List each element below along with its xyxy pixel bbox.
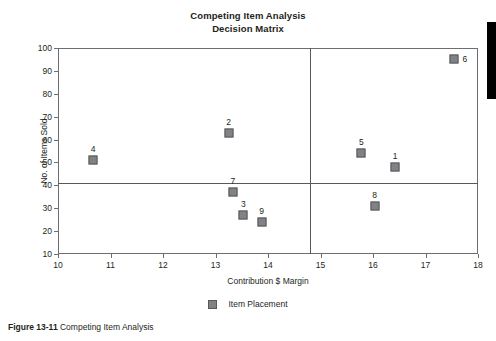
chart-subtitle: Decision Matrix xyxy=(0,23,496,36)
x-axis-label: Contribution $ Margin xyxy=(58,276,478,286)
chart-title-block: Competing Item Analysis Decision Matrix xyxy=(0,10,496,35)
data-point-marker xyxy=(89,156,98,165)
y-tick-mark xyxy=(54,94,58,95)
plot-frame xyxy=(58,48,478,254)
y-tick-mark xyxy=(54,71,58,72)
figure-root: Competing Item Analysis Decision Matrix … xyxy=(0,0,496,341)
y-tick-label: 30 xyxy=(43,204,52,213)
x-tick-mark xyxy=(268,254,269,258)
y-tick-mark xyxy=(54,162,58,163)
figure-caption-text: Competing Item Analysis xyxy=(60,322,154,332)
y-tick-label: 100 xyxy=(38,44,52,53)
x-tick-mark xyxy=(478,254,479,258)
data-point-marker xyxy=(239,211,248,220)
y-tick-mark xyxy=(54,117,58,118)
x-tick-label: 16 xyxy=(368,261,377,270)
y-tick-label: 20 xyxy=(43,227,52,236)
x-tick-label: 12 xyxy=(158,261,167,270)
x-tick-label: 14 xyxy=(263,261,272,270)
data-point-marker xyxy=(391,163,400,172)
data-point-label: 1 xyxy=(393,152,398,161)
data-point-marker xyxy=(450,55,459,64)
x-tick-mark xyxy=(163,254,164,258)
x-tick-mark xyxy=(373,254,374,258)
x-tick-mark xyxy=(426,254,427,258)
quadrant-line-vertical xyxy=(310,48,311,254)
y-tick-label: 10 xyxy=(43,250,52,259)
figure-caption: Figure 13-11 Competing Item Analysis xyxy=(8,322,154,333)
data-point-label: 4 xyxy=(91,145,96,154)
y-tick-label: 50 xyxy=(43,158,52,167)
y-tick-mark xyxy=(54,48,58,49)
legend-swatch-icon xyxy=(208,300,217,309)
y-tick-label: 90 xyxy=(43,66,52,75)
x-tick-mark xyxy=(111,254,112,258)
x-tick-label: 13 xyxy=(211,261,220,270)
data-point-label: 5 xyxy=(359,138,364,147)
legend-label: Item Placement xyxy=(228,299,287,309)
y-tick-label: 60 xyxy=(43,135,52,144)
x-tick-label: 18 xyxy=(473,261,482,270)
x-tick-label: 15 xyxy=(316,261,325,270)
y-tick-label: 70 xyxy=(43,112,52,121)
data-point-label: 3 xyxy=(241,200,246,209)
data-point-label: 8 xyxy=(372,191,377,200)
data-point-label: 7 xyxy=(230,177,235,186)
y-tick-mark xyxy=(54,208,58,209)
data-point-label: 9 xyxy=(259,207,264,216)
y-tick-mark xyxy=(54,140,58,141)
figure-number: Figure 13-11 xyxy=(8,322,58,332)
quadrant-line-horizontal xyxy=(58,183,478,184)
x-tick-label: 17 xyxy=(421,261,430,270)
chart-title: Competing Item Analysis xyxy=(0,10,496,23)
y-axis-label-text: No. of Items Sold xyxy=(39,118,49,183)
x-tick-label: 11 xyxy=(106,261,115,270)
x-tick-mark xyxy=(216,254,217,258)
chart-legend: Item Placement xyxy=(0,299,496,309)
y-tick-mark xyxy=(54,231,58,232)
data-point-marker xyxy=(357,149,366,158)
x-tick-mark xyxy=(58,254,59,258)
y-tick-mark xyxy=(54,185,58,186)
data-point-label: 6 xyxy=(462,55,467,64)
plot-area: 102030405060708090100 101112131415161718… xyxy=(58,48,478,254)
x-tick-label: 10 xyxy=(53,261,62,270)
data-point-label: 2 xyxy=(226,118,231,127)
x-tick-mark xyxy=(321,254,322,258)
data-point-marker xyxy=(257,217,266,226)
data-point-marker xyxy=(228,188,237,197)
data-point-marker xyxy=(224,128,233,137)
y-tick-label: 80 xyxy=(43,89,52,98)
y-tick-label: 40 xyxy=(43,181,52,190)
data-point-marker xyxy=(370,201,379,210)
